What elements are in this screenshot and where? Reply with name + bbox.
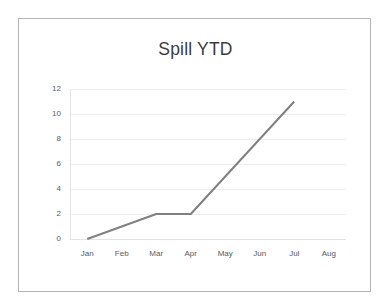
y-tick-label: 0	[57, 234, 62, 243]
y-tick-label: 2	[57, 209, 62, 218]
gridlines-group	[70, 90, 346, 240]
data-series-group	[87, 102, 294, 240]
y-axis-tick-labels: 024681012	[52, 84, 61, 243]
x-tick-label: Feb	[115, 249, 129, 258]
x-tick-label: Jul	[289, 249, 299, 258]
x-tick-label: Apr	[185, 249, 198, 258]
x-axis-tick-labels: JanFebMarAprMayJunJulAug	[81, 249, 336, 258]
y-tick-label: 6	[57, 159, 62, 168]
y-tick-label: 12	[52, 84, 61, 93]
x-tick-label: Jun	[253, 249, 266, 258]
x-tick-label: Aug	[322, 249, 336, 258]
line-chart-plot: 024681012 JanFebMarAprMayJunJulAug	[19, 19, 372, 293]
y-tick-label: 4	[57, 184, 62, 193]
x-tick-label: Mar	[149, 249, 163, 258]
series-line	[87, 102, 294, 240]
y-tick-label: 8	[57, 134, 62, 143]
chart-frame: Spill YTD 024681012 JanFebMarAprMayJunJu…	[18, 18, 371, 292]
x-tick-label: Jan	[81, 249, 94, 258]
x-tick-label: May	[218, 249, 233, 258]
y-tick-label: 10	[52, 109, 61, 118]
